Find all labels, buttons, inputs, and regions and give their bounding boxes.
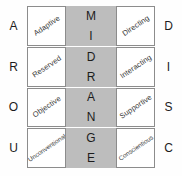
- trait-label-adaptive: Adaptive: [32, 14, 61, 37]
- right-axis-letters: D I S C: [155, 6, 182, 168]
- trait-label-objective: Objective: [31, 95, 62, 120]
- midrange-letter-r: R: [87, 71, 96, 83]
- grid-row-unconventional-conscientious: Unconventional G E Conscientious: [27, 128, 155, 168]
- midrange-letter-i: I: [89, 30, 92, 42]
- trait-cell-unconventional[interactable]: Unconventional: [27, 128, 66, 168]
- midrange-band-segment-2: D R: [66, 47, 116, 87]
- left-axis-letter-r: R: [0, 47, 27, 87]
- disc-midrange-diagram: A R O U Adaptive M I Directing Reserved …: [0, 0, 182, 176]
- midrange-letter-e: E: [87, 152, 95, 164]
- midrange-letter-n: N: [87, 111, 96, 123]
- midrange-letter-d: D: [87, 51, 96, 63]
- right-axis-letter-d: D: [155, 6, 182, 46]
- left-axis-letter-o: O: [0, 88, 27, 128]
- left-axis-letter-a: A: [0, 6, 27, 46]
- grid-row-reserved-interacting: Reserved D R Interacting: [27, 47, 155, 87]
- trait-grid: Adaptive M I Directing Reserved D R Inte…: [27, 6, 155, 168]
- trait-cell-conscientious[interactable]: Conscientious: [116, 128, 155, 168]
- right-axis-letter-c: C: [155, 128, 182, 168]
- midrange-letter-m: M: [86, 10, 96, 22]
- trait-label-reserved: Reserved: [31, 54, 63, 79]
- midrange-band-segment-4: G E: [66, 128, 116, 168]
- trait-label-directing: Directing: [121, 14, 151, 38]
- trait-label-unconventional: Unconventional: [27, 132, 66, 163]
- trait-cell-directing[interactable]: Directing: [116, 6, 155, 46]
- left-axis-letter-u: U: [0, 128, 27, 168]
- grid-row-adaptive-directing: Adaptive M I Directing: [27, 6, 155, 46]
- right-axis-letter-i: I: [155, 47, 182, 87]
- midrange-letter-a: A: [87, 91, 95, 103]
- left-axis-letters: A R O U: [0, 6, 27, 168]
- midrange-letter-g: G: [86, 132, 95, 144]
- grid-row-objective-supportive: Objective A N Supportive: [27, 88, 155, 128]
- trait-label-supportive: Supportive: [118, 94, 153, 121]
- trait-cell-supportive[interactable]: Supportive: [116, 88, 155, 128]
- midrange-band-segment-1: M I: [66, 6, 116, 46]
- right-axis-letter-s: S: [155, 88, 182, 128]
- trait-cell-reserved[interactable]: Reserved: [27, 47, 66, 87]
- trait-cell-objective[interactable]: Objective: [27, 88, 66, 128]
- trait-label-interacting: Interacting: [118, 53, 152, 80]
- midrange-band-segment-3: A N: [66, 88, 116, 128]
- trait-cell-interacting[interactable]: Interacting: [116, 47, 155, 87]
- trait-label-conscientious: Conscientious: [117, 134, 155, 163]
- trait-cell-adaptive[interactable]: Adaptive: [27, 6, 66, 46]
